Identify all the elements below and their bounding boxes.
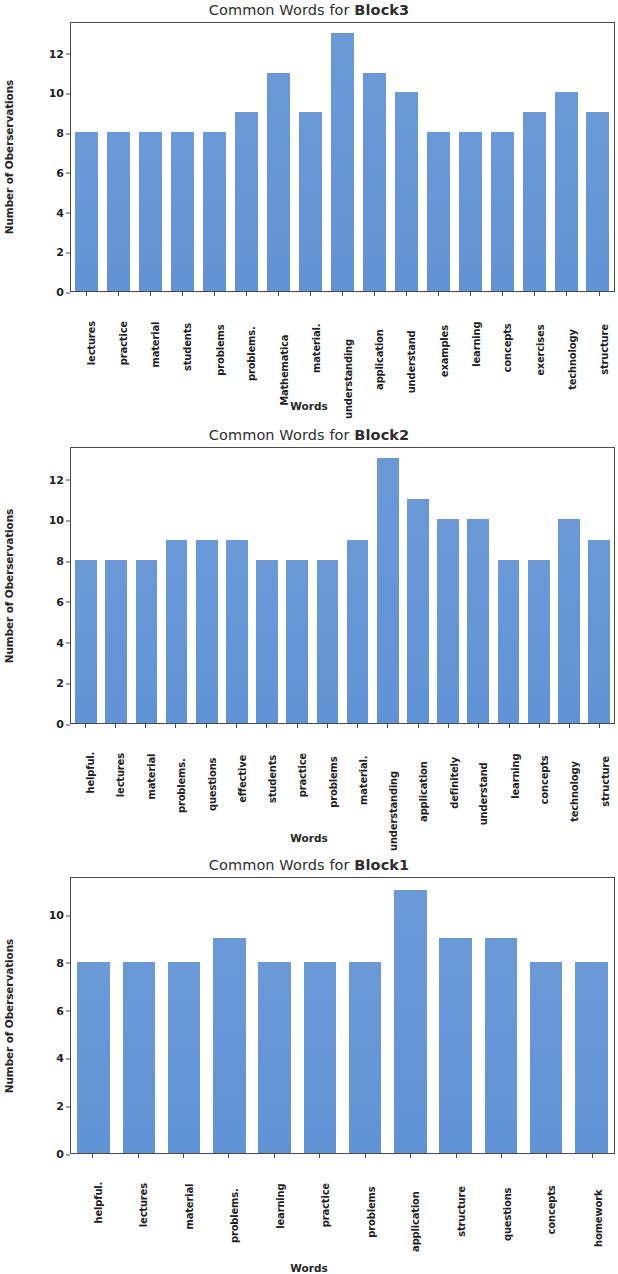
chart-panel-block1: Common Words for Block1 Number of Oberse…: [0, 855, 618, 1271]
x-tick-label: practice: [118, 321, 129, 365]
x-tick-slot: lectures: [70, 292, 102, 387]
chart-title-block-name: Block3: [354, 2, 409, 18]
x-tick-mark: [406, 292, 407, 296]
chart-title-block2: Common Words for Block2: [0, 425, 618, 447]
bar-slot: [167, 23, 199, 291]
bar: [485, 938, 518, 1153]
x-tick-slot: homework: [570, 1154, 615, 1249]
x-tick-mark: [150, 292, 151, 296]
bar: [459, 132, 482, 291]
bar: [437, 519, 459, 723]
y-tick-label: 4: [56, 636, 64, 649]
x-tick-label: material: [184, 1184, 195, 1230]
plot-area-block1: Number of Oberservations 0246810 helpful…: [0, 877, 618, 1271]
chart-title-block3: Common Words for Block3: [0, 0, 618, 22]
x-tick-mark: [118, 292, 119, 296]
bar: [588, 540, 610, 723]
y-tick-label: 12: [49, 473, 64, 486]
bar: [235, 112, 258, 291]
y-tick-label: 4: [56, 206, 64, 219]
bar-slot: [433, 448, 463, 723]
x-tick-mark: [246, 292, 247, 296]
x-tick-slot: material.: [294, 292, 326, 387]
x-tick-label: lectures: [115, 753, 126, 797]
bar-slot: [550, 23, 582, 291]
x-tick-slot: concepts: [487, 292, 519, 387]
bar-slot: [478, 878, 523, 1153]
bar: [136, 560, 158, 723]
y-tick-label: 6: [56, 1004, 64, 1017]
x-tick-mark: [319, 1154, 320, 1158]
bar: [349, 962, 382, 1153]
y-tick-label: 6: [56, 595, 64, 608]
x-tick-label: lectures: [86, 321, 97, 365]
bar-slot: [252, 878, 297, 1153]
x-tick-label: Mathematica: [278, 335, 289, 406]
bar-slot: [554, 448, 584, 723]
x-tick-label: learning: [471, 322, 482, 367]
x-tick-slot: questions: [191, 724, 221, 819]
x-tick-label: students: [267, 755, 278, 803]
x-tick-slot: definitely: [433, 724, 463, 819]
x-tick-label: students: [182, 323, 193, 371]
bar: [75, 560, 97, 723]
chart-title-prefix: Common Words for: [209, 2, 355, 18]
bar-slot: [582, 23, 614, 291]
bar: [528, 560, 550, 723]
bar-slot: [71, 23, 103, 291]
bar-slot: [297, 878, 342, 1153]
bar-slot: [282, 448, 312, 723]
bar: [467, 519, 489, 723]
x-tick-mark: [183, 1154, 184, 1158]
bar: [299, 112, 322, 291]
x-tick-label: learning: [274, 1184, 285, 1229]
bar: [75, 132, 98, 291]
x-tick-label: application: [375, 329, 386, 390]
bar-slot: [390, 23, 422, 291]
x-tick-label: material.: [310, 324, 321, 373]
x-tick-mark: [456, 1154, 457, 1158]
bar-slot: [454, 23, 486, 291]
bar-slot: [343, 448, 373, 723]
bar-slot: [433, 878, 478, 1153]
x-tick-label: questions: [502, 1188, 513, 1241]
bar: [256, 560, 278, 723]
bar: [427, 132, 450, 291]
bar-slot: [493, 448, 523, 723]
bar: [203, 132, 226, 291]
bar: [394, 890, 427, 1153]
bar: [123, 962, 156, 1153]
x-tick-slot: application: [403, 724, 433, 819]
x-tick-label: concepts: [539, 755, 550, 804]
x-tick-label: questions: [206, 758, 217, 811]
chart-panel-block2: Common Words for Block2 Number of Oberse…: [0, 425, 618, 841]
y-axis-ticks-block2: 024681012: [36, 447, 70, 724]
y-tick-label: 0: [56, 718, 64, 731]
bar: [347, 540, 369, 723]
y-tick-label: 8: [56, 956, 64, 969]
bar-slot: [486, 23, 518, 291]
x-tick-slot: material: [131, 724, 161, 819]
x-tick-label: understand: [479, 762, 490, 825]
x-tick-label: examples: [439, 325, 450, 377]
x-tick-slot: structure: [585, 724, 615, 819]
bar-slot: [524, 878, 569, 1153]
x-tick-label: homework: [592, 1190, 603, 1247]
bar: [331, 33, 354, 291]
bar: [555, 92, 578, 291]
x-tick-mark: [448, 724, 449, 728]
x-tick-label: lectures: [138, 1183, 149, 1227]
x-tick-slot: structure: [433, 1154, 478, 1249]
x-tick-slot: problems: [198, 292, 230, 387]
bar: [498, 560, 520, 723]
x-tick-slot: problems: [343, 1154, 388, 1249]
y-tick-label: 12: [49, 47, 64, 60]
x-tick-slot: exercises: [519, 292, 551, 387]
x-tick-mark: [566, 292, 567, 296]
y-axis-title-block2: Number of Oberservations: [0, 447, 18, 724]
bar-slot: [327, 23, 359, 291]
x-tick-slot: Mathematica: [262, 292, 294, 387]
x-tick-slot: practice: [282, 724, 312, 819]
bar-slot: [312, 448, 342, 723]
